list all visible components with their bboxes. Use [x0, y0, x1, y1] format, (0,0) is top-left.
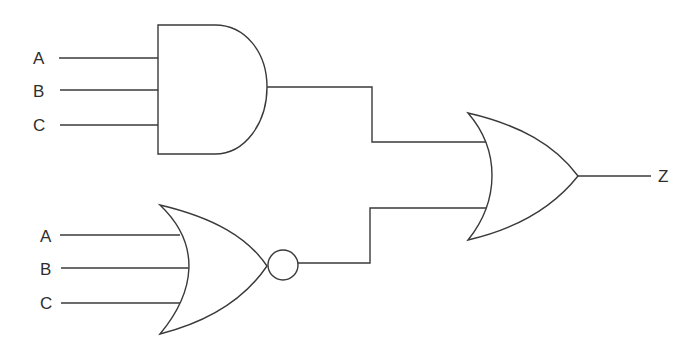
- nor-to-or-wire: [298, 208, 488, 263]
- nor-inversion-bubble-icon: [268, 250, 298, 280]
- nor-gate-icon: [160, 205, 267, 334]
- and-gate-group: A B C: [33, 25, 267, 154]
- and-input-b-label: B: [33, 82, 44, 101]
- output-z-label: Z: [658, 167, 668, 186]
- nor-input-a-label: A: [40, 227, 52, 246]
- and-input-c-label: C: [33, 116, 45, 135]
- or-gate-group: Z: [468, 113, 668, 240]
- and-gate-icon: [158, 25, 267, 154]
- and-input-a-label: A: [33, 49, 45, 68]
- and-to-or-wire: [267, 87, 488, 142]
- nor-gate-group: A B C: [40, 205, 298, 334]
- or-gate-icon: [468, 113, 578, 240]
- logic-circuit-diagram: A B C A B C Z: [0, 0, 700, 350]
- nor-input-b-label: B: [40, 260, 51, 279]
- nor-input-c-label: C: [40, 294, 52, 313]
